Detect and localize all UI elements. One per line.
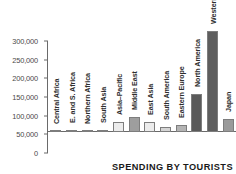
bar-category-label: E. and S. Africa: [67, 72, 76, 123]
bar-category-label: Japan: [224, 92, 233, 112]
y-axis-tick-label: 0: [34, 149, 38, 158]
bar-category-label: Eastern Europe: [177, 66, 186, 118]
bar: [144, 122, 155, 132]
bar-slot: Eastern Europe: [173, 0, 189, 132]
bar: [191, 94, 202, 132]
bar-slot: South Asia: [95, 0, 111, 132]
bar: [160, 127, 171, 132]
plot-area: Central AfricaE. and S. AfricaNorthern A…: [48, 0, 236, 153]
y-axis-tick-label: 300,000: [12, 37, 38, 46]
bar-category-label: Asia–Pacific: [114, 74, 123, 115]
bar-category-label: Western Europe: [208, 0, 217, 24]
bar: [50, 130, 61, 132]
bar-slot: Western Europe: [205, 0, 221, 132]
bar-slot: Middle East: [126, 0, 142, 132]
y-axis-tick-label: 100,000: [12, 111, 38, 120]
bar: [223, 119, 234, 132]
bar: [66, 130, 77, 132]
bar-chart: 300,000250,000200,000150,000100,00050,00…: [0, 0, 236, 174]
bar-slot: South America: [158, 0, 174, 132]
bar-slot: Northern Africa: [79, 0, 95, 132]
bar: [97, 130, 108, 132]
bar-slot: E. and S. Africa: [64, 0, 80, 132]
bar-slot: Japan: [220, 0, 236, 132]
y-axis-tick-label: 50,000: [16, 130, 38, 139]
bar-slot: North America: [189, 0, 205, 132]
bar-category-label: East Asia: [145, 84, 154, 115]
bar-category-label: North America: [192, 39, 201, 87]
y-axis-tick-label: 150,000: [12, 93, 38, 102]
bar: [129, 117, 140, 132]
bar-slot: Asia–Pacific: [111, 0, 127, 132]
chart-caption: SPENDING BY TOURISTS: [112, 162, 233, 172]
bar: [82, 130, 93, 132]
bar: [176, 125, 187, 132]
bar-category-label: South America: [161, 71, 170, 120]
bar-category-label: Central Africa: [51, 79, 60, 124]
bar-slot: Central Africa: [48, 0, 64, 132]
bar: [113, 122, 124, 132]
bar-series: Central AfricaE. and S. AfricaNorthern A…: [48, 0, 236, 132]
y-axis-tick-label: 250,000: [12, 55, 38, 64]
bar-category-label: South Asia: [98, 87, 107, 123]
y-axis: 300,000250,000200,000150,000100,00050,00…: [0, 0, 44, 174]
bar: [207, 31, 218, 132]
bar-category-label: Northern Africa: [83, 73, 92, 124]
y-axis-tick-label: 200,000: [12, 74, 38, 83]
bar-category-label: Middle East: [130, 72, 139, 111]
bar-slot: East Asia: [142, 0, 158, 132]
